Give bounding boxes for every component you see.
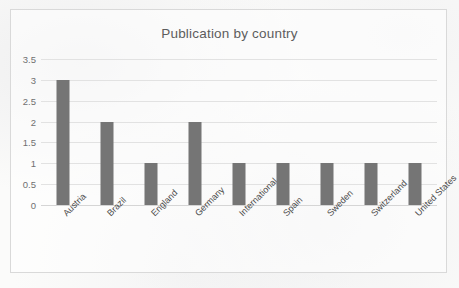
y-axis-tick-label: 0 [31,200,36,211]
bar [189,122,202,205]
chart-title: Publication by country [11,26,448,41]
y-axis-tick-label: 2 [31,116,36,127]
bar [145,163,158,205]
y-axis-tick-label: 3.5 [23,54,36,65]
bar [321,163,334,205]
bar [57,80,70,205]
y-axis-tick-label: 0.5 [23,179,36,190]
y-axis-tick-label: 1.5 [23,137,36,148]
bar-group: International [217,59,261,205]
bar-group: Brazil [85,59,129,205]
bar [277,163,290,205]
bar-group: Germany [173,59,217,205]
bar-group: Switzerland [349,59,393,205]
y-axis-tick-label: 2.5 [23,95,36,106]
bar-group: Austria [41,59,85,205]
y-axis-tick-label: 1 [31,158,36,169]
bar-group: Sweden [305,59,349,205]
bar [409,163,422,205]
bar-series: AustriaBrazilEnglandGermanyInternational… [41,59,437,205]
bar-group: Spain [261,59,305,205]
bar [233,163,246,205]
bar [365,163,378,205]
plot-area: 00.511.522.533.5 AustriaBrazilEnglandGer… [41,59,437,205]
bar-group: England [129,59,173,205]
y-axis-tick-label: 3 [31,74,36,85]
bar-group: United States [393,59,437,205]
chart-container: Publication by country 00.511.522.533.5 … [10,9,447,273]
bar [101,122,114,205]
